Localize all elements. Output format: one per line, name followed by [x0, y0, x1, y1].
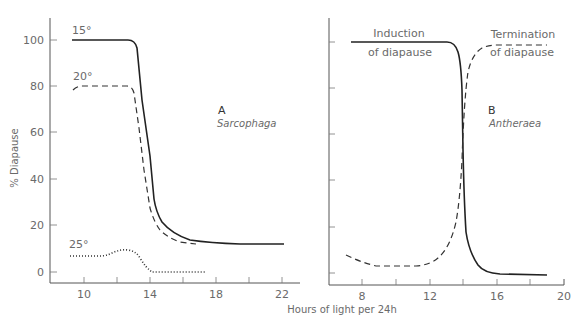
series-20-deg: [73, 86, 196, 244]
label-20-deg: 20°: [73, 70, 93, 83]
panel-b-y-ticks: [329, 42, 335, 273]
panel-a: 100 80 60 40 20 0 10 14 18 22: [23, 18, 300, 301]
panel-a-x-ticks: [84, 277, 282, 283]
y-tick-20: 20: [30, 219, 44, 232]
series-25-deg: [70, 250, 205, 272]
y-axis-title: % Diapause: [9, 128, 20, 187]
panel-b: 8 12 16 20 Induction of diapause Termina…: [329, 18, 571, 303]
x-axis-title: Hours of light per 24h: [287, 304, 397, 315]
svg-text:12: 12: [423, 290, 437, 303]
y-tick-60: 60: [30, 126, 44, 139]
panel-a-letter: A: [218, 104, 226, 117]
induction-label-line1: Induction: [373, 27, 424, 40]
svg-text:18: 18: [209, 288, 223, 301]
svg-text:20: 20: [557, 290, 571, 303]
label-25-deg: 25°: [69, 238, 89, 251]
panel-a-x-tick-labels: 10 14 18 22: [77, 288, 289, 301]
y-tick-80: 80: [30, 80, 44, 93]
y-tick-40: 40: [30, 173, 44, 186]
panel-a-y-tick-labels: 100 80 60 40 20 0: [23, 34, 44, 279]
panel-b-species: Antheraea: [488, 118, 541, 129]
svg-text:16: 16: [490, 290, 504, 303]
svg-text:22: 22: [275, 288, 289, 301]
label-15-deg: 15°: [72, 24, 92, 37]
series-15-deg: [72, 40, 284, 244]
panel-b-x-ticks: [362, 279, 530, 285]
panel-b-x-tick-labels: 8 12 16 20: [359, 290, 572, 303]
panel-b-x-axis: [329, 279, 564, 285]
induction-label-line2: of diapause: [368, 46, 432, 59]
panel-b-letter: B: [488, 104, 496, 117]
svg-text:8: 8: [359, 290, 366, 303]
y-tick-0: 0: [37, 266, 44, 279]
diapause-figure: % Diapause 100 80 60 40 20 0: [0, 0, 580, 323]
svg-text:10: 10: [77, 288, 91, 301]
panel-a-y-ticks: [50, 40, 57, 272]
svg-text:14: 14: [143, 288, 157, 301]
termination-label-line1: Termination: [490, 28, 556, 41]
series-termination: [346, 45, 547, 266]
panel-a-species: Sarcophaga: [217, 118, 277, 129]
y-tick-100: 100: [23, 34, 44, 47]
series-induction: [351, 42, 547, 275]
termination-label-line2: of diapause: [490, 46, 554, 59]
